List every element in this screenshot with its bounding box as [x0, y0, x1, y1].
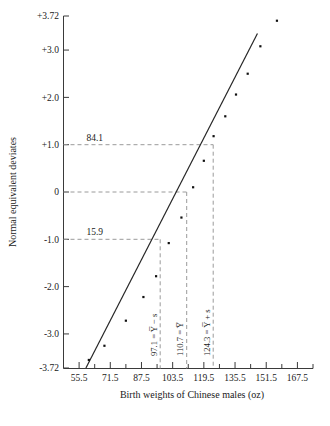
vertical-marker-label: 110.7 = Y̅: [175, 322, 185, 356]
x-tick-label: 135.5: [224, 373, 246, 383]
data-point: [142, 296, 144, 298]
vertical-marker-label: 97.1 = Y̅ − s: [149, 313, 159, 356]
data-point: [224, 115, 226, 117]
vertical-marker-labels: 97.1 = Y̅ − s110.7 = Y̅124.3 = Y̅ + s: [149, 309, 212, 356]
data-point: [180, 216, 182, 218]
y-tick-label: -1.0: [44, 235, 59, 245]
reference-guide-lines: [64, 145, 214, 369]
x-axis-title: Birth weights of Chinese males (oz): [120, 389, 264, 401]
data-point: [168, 242, 170, 244]
data-point: [192, 186, 194, 188]
y-tick-label: +2.0: [42, 93, 59, 103]
data-point: [235, 93, 237, 95]
normal-probability-plot: +3.72+3.0+2.0+1.00-1.0-2.0-3.0-3.72 55.5…: [0, 0, 330, 426]
guide-value-label: 84.1: [86, 133, 103, 143]
data-point: [276, 20, 278, 22]
x-tick-labels: 55.571.587.5103.5119.5135.5151.5167.5: [71, 373, 309, 383]
data-point: [203, 160, 205, 162]
data-point: [212, 135, 214, 137]
y-tick-label: -3.72: [39, 363, 59, 373]
x-minor-tick-marks: [64, 364, 314, 369]
y-tick-label: +3.72: [37, 11, 59, 21]
data-point: [88, 359, 90, 361]
guide-value-labels: 84.115.9: [86, 133, 103, 238]
figure-container: +3.72+3.0+2.0+1.00-1.0-2.0-3.0-3.72 55.5…: [0, 0, 330, 426]
y-tick-label: +3.0: [42, 45, 59, 55]
vertical-marker-label: 124.3 = Y̅ + s: [202, 309, 212, 356]
y-tick-label: 0: [54, 187, 59, 197]
data-point: [247, 73, 249, 75]
x-tick-label: 119.5: [193, 373, 214, 383]
x-tick-label: 71.5: [102, 373, 119, 383]
x-tick-label: 103.5: [162, 373, 184, 383]
data-point: [125, 320, 127, 322]
x-tick-label: 167.5: [287, 373, 309, 383]
y-tick-labels: +3.72+3.0+2.0+1.00-1.0-2.0-3.0-3.72: [37, 11, 59, 373]
y-tick-label: -3.0: [44, 329, 59, 339]
x-tick-label: 87.5: [133, 373, 150, 383]
x-tick-label: 151.5: [256, 373, 278, 383]
x-tick-label: 55.5: [71, 373, 88, 383]
fitted-regression-line: [86, 34, 258, 368]
data-point: [155, 275, 157, 277]
y-axis-title: Normal equivalent deviates: [7, 137, 18, 247]
guide-value-label: 15.9: [86, 227, 103, 237]
data-point: [103, 345, 105, 347]
data-point: [259, 45, 261, 47]
y-tick-label: +1.0: [42, 140, 59, 150]
y-tick-label: -2.0: [44, 282, 59, 292]
